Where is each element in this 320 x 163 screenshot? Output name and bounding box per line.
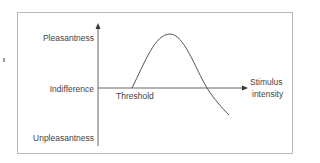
label-pleasantness: Pleasantness: [20, 33, 94, 43]
label-intensity: intensity: [252, 89, 283, 99]
label-stimulus: Stimulus: [250, 77, 283, 87]
label-unpleasantness: Unpleasantness: [20, 133, 94, 143]
x-axis-arrow-icon: [242, 86, 248, 91]
y-axis-arrow-icon: [96, 23, 101, 29]
label-indifference: Indifference: [20, 84, 94, 94]
label-threshold: Threshold: [116, 91, 154, 101]
hedonic-curve: [132, 34, 229, 115]
